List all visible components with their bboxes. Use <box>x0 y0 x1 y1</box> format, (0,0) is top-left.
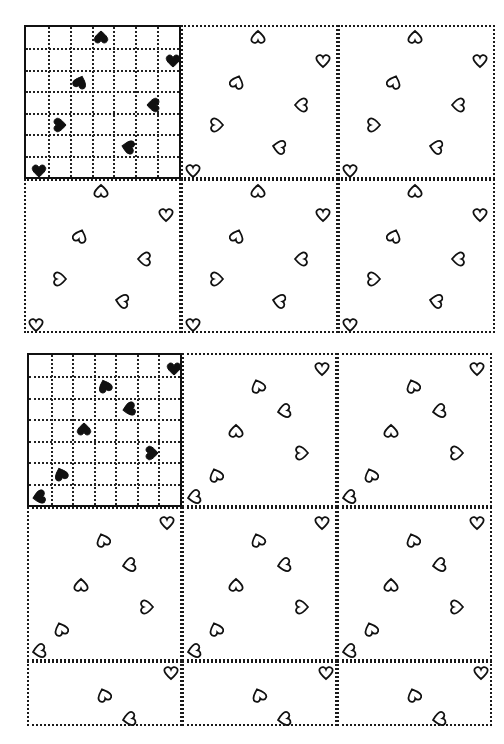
outline-heart-icon <box>159 515 175 531</box>
outline-heart-icon <box>163 665 179 681</box>
outline-heart-icon <box>404 685 425 706</box>
outline-heart-icon <box>366 271 382 287</box>
outline-heart-icon <box>136 251 152 267</box>
grid-line <box>92 27 94 177</box>
outline-heart-icon <box>403 376 424 397</box>
search-panel <box>338 25 495 179</box>
search-panel <box>24 179 181 333</box>
filled-heart-icon <box>70 72 91 93</box>
search-panel <box>181 179 338 333</box>
outline-heart-icon <box>275 556 294 575</box>
outline-heart-icon <box>472 53 488 69</box>
filled-heart-icon <box>95 376 116 397</box>
key-grid-panel <box>27 353 182 507</box>
search-panel <box>182 353 337 507</box>
outline-heart-icon <box>361 619 382 640</box>
grid-line <box>29 419 180 421</box>
grid-line <box>115 355 117 505</box>
outline-heart-icon <box>407 183 423 199</box>
search-panel <box>337 353 492 507</box>
filled-heart-icon <box>93 29 109 45</box>
outline-heart-icon <box>342 163 358 179</box>
filled-heart-icon <box>51 464 72 485</box>
outline-heart-icon <box>318 665 334 681</box>
outline-heart-icon <box>383 423 399 439</box>
outline-heart-icon <box>383 577 399 593</box>
grid-line <box>137 355 139 505</box>
outline-heart-icon <box>206 619 227 640</box>
outline-heart-icon <box>120 556 139 575</box>
search-panel <box>338 179 495 333</box>
search-panel <box>337 507 492 661</box>
grid-line <box>29 462 180 464</box>
outline-heart-icon <box>293 97 309 113</box>
outline-heart-icon <box>294 445 310 461</box>
grid-line <box>135 27 137 177</box>
filled-heart-icon <box>119 138 138 157</box>
grid-line <box>26 156 179 158</box>
filled-heart-icon <box>165 53 181 69</box>
grid-line <box>29 398 180 400</box>
outline-heart-icon <box>73 577 89 593</box>
outline-heart-icon <box>93 530 114 551</box>
outline-heart-icon <box>250 29 266 45</box>
partial-search-panel <box>27 661 182 726</box>
grid-line <box>26 91 179 93</box>
outline-heart-icon <box>120 710 139 729</box>
filled-heart-icon <box>120 400 139 419</box>
outline-heart-icon <box>294 599 310 615</box>
outline-heart-icon <box>228 423 244 439</box>
search-panel <box>182 507 337 661</box>
grid-line <box>26 48 179 50</box>
outline-heart-icon <box>275 710 294 729</box>
outline-heart-icon <box>209 271 225 287</box>
outline-heart-icon <box>227 226 248 247</box>
outline-heart-icon <box>209 117 225 133</box>
filled-heart-icon <box>30 488 49 507</box>
filled-heart-icon <box>31 163 47 179</box>
search-panel <box>181 25 338 179</box>
outline-heart-icon <box>275 402 294 421</box>
grid-line <box>72 355 74 505</box>
outline-heart-icon <box>361 465 382 486</box>
outline-heart-icon <box>158 207 174 223</box>
outline-heart-icon <box>342 317 358 333</box>
grid-line <box>158 355 160 505</box>
outline-heart-icon <box>469 515 485 531</box>
outline-heart-icon <box>185 317 201 333</box>
outline-heart-icon <box>340 488 359 507</box>
outline-heart-icon <box>403 530 424 551</box>
grid-line <box>26 113 179 115</box>
grid-line <box>113 27 115 177</box>
outline-heart-icon <box>270 292 289 311</box>
outline-heart-icon <box>315 53 331 69</box>
filled-heart-icon <box>76 421 92 437</box>
outline-heart-icon <box>51 619 72 640</box>
outline-heart-icon <box>206 465 227 486</box>
grid-line <box>26 70 179 72</box>
outline-heart-icon <box>314 515 330 531</box>
outline-heart-icon <box>449 599 465 615</box>
outline-heart-icon <box>472 207 488 223</box>
outline-heart-icon <box>384 226 405 247</box>
outline-heart-icon <box>70 226 91 247</box>
key-grid-panel <box>24 25 181 179</box>
grid-line <box>94 355 96 505</box>
outline-heart-icon <box>228 577 244 593</box>
outline-heart-icon <box>185 642 204 661</box>
outline-heart-icon <box>430 710 449 729</box>
outline-heart-icon <box>407 29 423 45</box>
outline-heart-icon <box>185 488 204 507</box>
outline-heart-icon <box>250 183 266 199</box>
outline-heart-icon <box>473 665 489 681</box>
outline-heart-icon <box>450 97 466 113</box>
filled-heart-icon <box>166 361 182 377</box>
outline-heart-icon <box>449 445 465 461</box>
outline-heart-icon <box>366 117 382 133</box>
outline-heart-icon <box>52 271 68 287</box>
filled-heart-icon <box>52 117 68 133</box>
outline-heart-icon <box>248 376 269 397</box>
partial-search-panel <box>337 661 492 726</box>
outline-heart-icon <box>93 183 109 199</box>
outline-heart-icon <box>227 72 248 93</box>
